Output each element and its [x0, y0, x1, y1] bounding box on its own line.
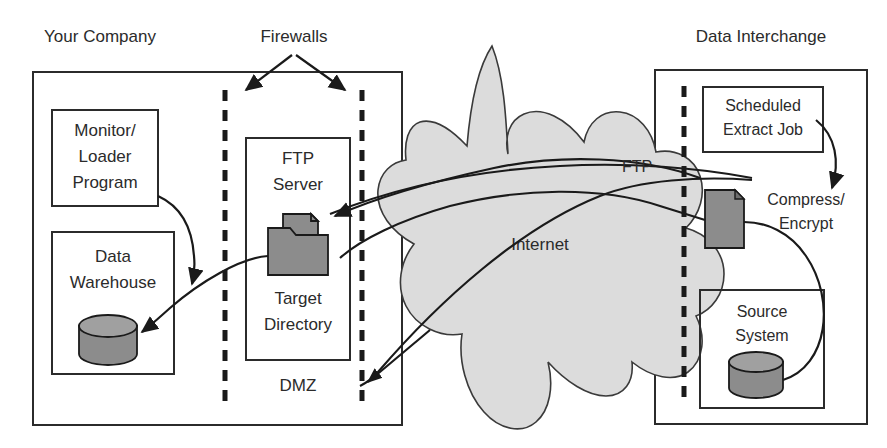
target-directory-label-line1: Target — [274, 289, 322, 308]
diagram-canvas: Your Company Firewalls Data Interchange … — [0, 0, 887, 448]
dmz-label: DMZ — [280, 376, 317, 395]
label-ftp: FTP — [622, 158, 652, 175]
source-system-label-line1: Source — [737, 303, 788, 320]
label-your-company: Your Company — [44, 27, 156, 46]
label-internet: Internet — [511, 235, 569, 254]
scheduled-extract-job-label-line2: Extract Job — [723, 121, 803, 138]
database-cylinder-icon-warehouse — [79, 315, 137, 365]
ftp-server-label-line2: Server — [273, 175, 323, 194]
ftp-server-label-line1: FTP — [282, 149, 314, 168]
flow-arrow-into-dmz-boundary — [368, 330, 430, 382]
monitor-loader-program-label-line2: Loader — [79, 147, 132, 166]
network-architecture-diagram: Your Company Firewalls Data Interchange … — [0, 0, 887, 448]
scheduled-extract-job-label-line1: Scheduled — [725, 97, 801, 114]
source-system-label-line2: System — [735, 327, 788, 344]
target-directory-label-line2: Directory — [264, 315, 333, 334]
arrow-extract-to-compress — [816, 120, 836, 188]
monitor-loader-program-label-line1: Monitor/ — [74, 121, 136, 140]
database-cylinder-icon-source-system — [729, 352, 783, 398]
label-firewalls: Firewalls — [260, 27, 327, 46]
compress-encrypt-label-line2: Encrypt — [779, 215, 834, 232]
compress-encrypt-label-line1: Compress/ — [767, 191, 845, 208]
data-warehouse-label-line1: Data — [95, 247, 131, 266]
label-data-interchange: Data Interchange — [696, 27, 826, 46]
flow-target-to-warehouse — [142, 256, 268, 332]
data-warehouse-label-line2: Warehouse — [70, 273, 156, 292]
folder-document-icon-target-directory — [268, 214, 328, 275]
document-page-icon-compress-encrypt — [705, 190, 744, 248]
flow-monitor-loader-trigger — [158, 196, 194, 284]
monitor-loader-program-label-line3: Program — [72, 173, 137, 192]
